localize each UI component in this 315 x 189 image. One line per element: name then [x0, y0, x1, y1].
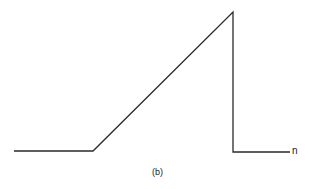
ramp-waveform-line	[14, 12, 290, 152]
figure-caption: (b)	[0, 167, 315, 177]
axis-label-n: n	[292, 146, 298, 156]
waveform-diagram	[0, 0, 315, 189]
